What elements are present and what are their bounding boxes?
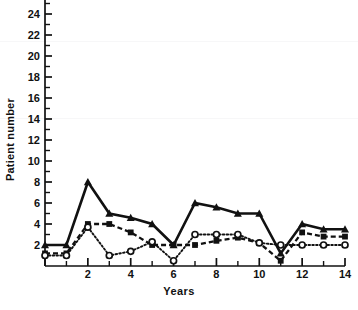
marker-circle [106, 253, 112, 259]
x-tick-label: 10 [253, 268, 265, 280]
x-tick-label: 12 [296, 268, 308, 280]
marker-triangle [84, 178, 92, 185]
x-tick-label: 8 [213, 268, 219, 280]
marker-circle [192, 232, 198, 238]
marker-circle [321, 242, 327, 248]
marker-square [321, 234, 327, 240]
plot-canvas [0, 0, 358, 310]
x-axis-label: Years [0, 285, 358, 297]
marker-circle [42, 253, 48, 259]
chart-figure: Patient number 2468101214161820222426 24… [0, 0, 358, 310]
marker-circle [278, 242, 284, 248]
marker-square [342, 234, 348, 240]
marker-circle [256, 240, 262, 246]
x-tick-label: 14 [339, 268, 351, 280]
marker-circle [171, 258, 177, 264]
marker-square [278, 258, 284, 264]
series-group [41, 178, 349, 264]
x-tick-label: 6 [171, 268, 177, 280]
marker-square [299, 230, 305, 236]
marker-circle [149, 239, 155, 245]
marker-circle [235, 232, 241, 238]
x-tick-label: 2 [85, 268, 91, 280]
marker-circle [299, 242, 305, 248]
marker-square [128, 230, 134, 236]
marker-circle [342, 242, 348, 248]
marker-circle [85, 224, 91, 230]
marker-square [106, 221, 112, 227]
x-axis-tick-labels: 2468101214 [0, 268, 358, 284]
marker-circle [63, 253, 69, 259]
marker-square [171, 242, 177, 248]
x-tick-label: 4 [128, 268, 134, 280]
marker-circle [128, 248, 134, 254]
marker-square [214, 238, 220, 244]
marker-circle [213, 232, 219, 238]
marker-square [192, 242, 198, 248]
